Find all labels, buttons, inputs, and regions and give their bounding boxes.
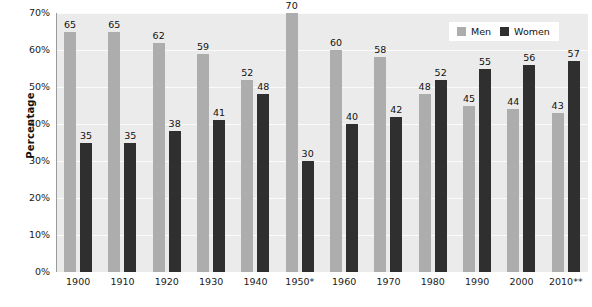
chart-legend: MenWomen xyxy=(449,22,559,41)
y-axis-tick-label: 60% xyxy=(8,44,50,55)
y-axis-tick-label: 30% xyxy=(8,155,50,166)
bar-men[interactable] xyxy=(197,54,209,272)
y-axis-tick-label: 20% xyxy=(8,192,50,203)
bar-value-label: 60 xyxy=(324,37,348,48)
bar-value-label: 56 xyxy=(517,52,541,63)
bar-women[interactable] xyxy=(523,65,535,272)
bar-value-label: 65 xyxy=(102,19,126,30)
bar-value-label: 30 xyxy=(296,148,320,159)
bar-women[interactable] xyxy=(302,161,314,272)
bar-men[interactable] xyxy=(507,109,519,272)
bar-women[interactable] xyxy=(435,80,447,272)
bar-value-label: 48 xyxy=(413,81,437,92)
legend-item-women[interactable]: Women xyxy=(500,26,550,37)
bar-group: 6238 xyxy=(146,13,190,272)
bar-women[interactable] xyxy=(124,143,136,273)
bar-value-label: 59 xyxy=(191,41,215,52)
bar-men[interactable] xyxy=(419,94,431,272)
bar-men[interactable] xyxy=(330,50,342,272)
bar-women[interactable] xyxy=(390,117,402,272)
bar-group: 5842 xyxy=(367,13,411,272)
bar-value-label: 38 xyxy=(163,118,187,129)
bar-value-label: 40 xyxy=(340,111,364,122)
bar-value-label: 44 xyxy=(501,96,525,107)
plot-inner: 6535653562385941524870306040584248524555… xyxy=(57,13,588,272)
bar-women[interactable] xyxy=(257,94,269,272)
bar-value-label: 48 xyxy=(251,81,275,92)
y-axis-tick-label: 50% xyxy=(8,81,50,92)
bar-group: 5941 xyxy=(190,13,234,272)
bar-men[interactable] xyxy=(286,13,298,272)
bar-group: 6040 xyxy=(323,13,367,272)
bar-value-label: 52 xyxy=(429,67,453,78)
x-axis-tick-label: 2010** xyxy=(536,276,592,287)
bar-men[interactable] xyxy=(374,57,386,272)
bar-group: 4357 xyxy=(545,13,589,272)
legend-swatch-icon xyxy=(457,27,466,36)
legend-item-men[interactable]: Men xyxy=(457,26,491,37)
bar-women[interactable] xyxy=(213,120,225,272)
bar-men[interactable] xyxy=(64,32,76,273)
bar-group: 5248 xyxy=(234,13,278,272)
bar-men[interactable] xyxy=(463,106,475,273)
bar-men[interactable] xyxy=(153,43,165,272)
bar-women[interactable] xyxy=(568,61,580,272)
bar-value-label: 41 xyxy=(207,107,231,118)
legend-swatch-icon xyxy=(500,27,509,36)
bar-chart: Percentage 0%10%20%30%40%50%60%70% 65356… xyxy=(0,0,592,307)
bar-value-label: 70 xyxy=(280,0,304,11)
y-axis-tick-label: 0% xyxy=(8,266,50,277)
bar-value-label: 55 xyxy=(473,56,497,67)
bar-value-label: 58 xyxy=(368,44,392,55)
y-axis-tick-label: 10% xyxy=(8,229,50,240)
y-axis-tick-label: 40% xyxy=(8,118,50,129)
bar-value-label: 52 xyxy=(235,67,259,78)
bar-group: 4852 xyxy=(412,13,456,272)
bar-value-label: 43 xyxy=(546,100,570,111)
bar-group: 6535 xyxy=(101,13,145,272)
bar-value-label: 65 xyxy=(58,19,82,30)
legend-label: Men xyxy=(471,26,491,37)
bar-women[interactable] xyxy=(169,131,181,272)
bar-value-label: 62 xyxy=(147,30,171,41)
bar-group: 6535 xyxy=(57,13,101,272)
bar-women[interactable] xyxy=(346,124,358,272)
bar-group: 4456 xyxy=(500,13,544,272)
bar-group: 7030 xyxy=(279,13,323,272)
bar-value-label: 42 xyxy=(384,104,408,115)
bar-value-label: 35 xyxy=(118,130,142,141)
y-axis-tick-label: 70% xyxy=(8,7,50,18)
bar-men[interactable] xyxy=(241,80,253,272)
bar-value-label: 35 xyxy=(74,130,98,141)
bar-women[interactable] xyxy=(479,69,491,273)
legend-label: Women xyxy=(514,26,550,37)
plot-area: 6535653562385941524870306040584248524555… xyxy=(56,13,588,272)
x-axis-tick-labels: 190019101920193019401950*196019701980199… xyxy=(56,276,588,300)
bar-men[interactable] xyxy=(108,32,120,273)
bar-value-label: 45 xyxy=(457,93,481,104)
bar-value-label: 57 xyxy=(562,48,586,59)
bar-group: 4555 xyxy=(456,13,500,272)
bar-women[interactable] xyxy=(80,143,92,273)
bar-men[interactable] xyxy=(552,113,564,272)
